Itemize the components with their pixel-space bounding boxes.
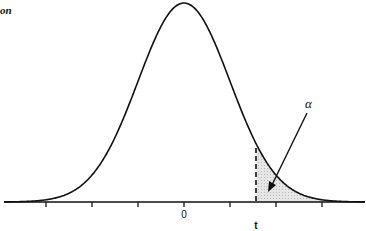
alpha-label: α	[305, 96, 313, 111]
zero-tick-label: 0	[181, 209, 187, 220]
alpha-arrow	[271, 113, 307, 187]
normal-distribution-chart: α 0 t	[0, 0, 366, 231]
t-label: t	[254, 220, 258, 231]
alpha-shaded-area	[256, 144, 365, 202]
x-axis-ticks	[46, 202, 322, 207]
